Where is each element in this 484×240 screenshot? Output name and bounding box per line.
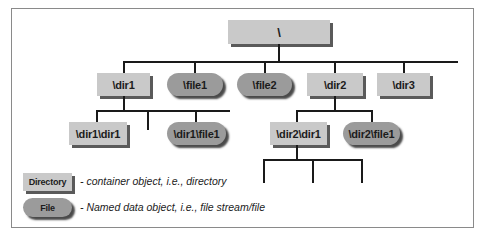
node-label: \file1 [183, 79, 207, 91]
node-dir2: \dir2 [307, 73, 363, 96]
connector [371, 110, 373, 122]
node-label: \dir1\dir1 [76, 128, 120, 140]
connector [278, 44, 280, 62]
node-label: \dir2\dir1 [276, 128, 320, 140]
node-label: \dir3 [392, 79, 414, 91]
connector [296, 110, 298, 122]
connector [195, 110, 197, 122]
node-dir1-file1: \dir1\file1 [167, 122, 226, 145]
connector [123, 61, 125, 73]
legend-file-label: File [40, 203, 55, 213]
connector [296, 145, 298, 160]
connector [361, 159, 363, 183]
legend-directory-label: Directory [29, 177, 67, 187]
node-file2: \file2 [237, 73, 292, 96]
node-file1: \file1 [167, 73, 223, 96]
connector [194, 61, 196, 73]
node-label: \dir1\file1 [173, 128, 219, 140]
node-dir1-dir1: \dir1\dir1 [69, 122, 127, 145]
connector [334, 61, 336, 73]
node-label: \dir2\file1 [348, 128, 394, 140]
legend-file-description: - Named data object, i.e., file stream/f… [80, 201, 265, 213]
node-dir2-dir1: \dir2\dir1 [270, 122, 327, 145]
connector [96, 110, 98, 122]
connector [403, 61, 405, 73]
legend-file-swatch: File [23, 198, 72, 217]
connector [147, 110, 149, 130]
connector [334, 96, 336, 111]
node-root: \ [228, 20, 330, 44]
node-label: \dir2 [324, 79, 346, 91]
legend-directory-description: - container object, i.e., directory [80, 175, 226, 187]
node-label: \ [277, 25, 280, 40]
node-dir3: \dir3 [377, 73, 430, 96]
connector [123, 61, 458, 63]
connector [264, 61, 266, 73]
legend-directory-swatch: Directory [23, 173, 72, 191]
connector [263, 159, 265, 183]
connector [312, 159, 314, 183]
connector [96, 110, 230, 112]
node-dir1: \dir1 [97, 73, 150, 96]
node-label: \dir1 [112, 79, 134, 91]
node-dir2-file1: \dir2\file1 [343, 122, 400, 145]
connector [296, 110, 373, 112]
node-label: \file2 [253, 79, 277, 91]
connector [123, 96, 125, 111]
